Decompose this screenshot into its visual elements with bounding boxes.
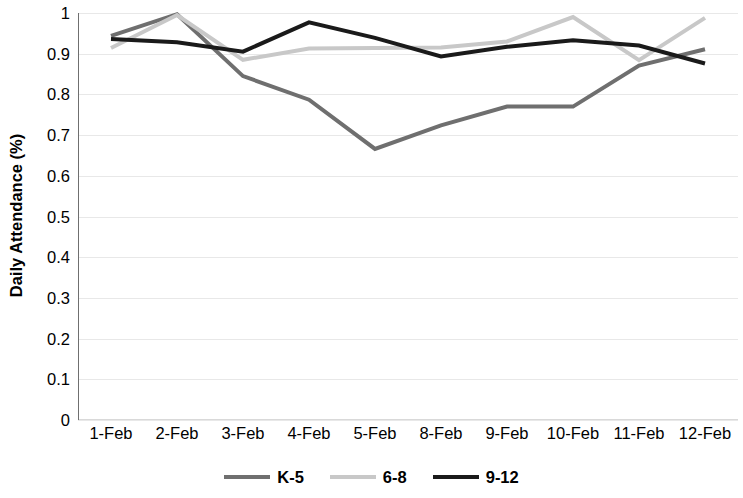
y-axis-tick-label: 0.6 — [47, 168, 70, 185]
legend-swatch-icon — [433, 475, 479, 479]
y-axis-tick-label: 0.8 — [47, 86, 70, 103]
x-axis-tick-label: 1-Feb — [89, 424, 132, 444]
y-axis-tick-label: 0.1 — [47, 371, 70, 388]
y-axis-tick-label: 0.2 — [47, 330, 70, 347]
line-chart: Daily Attendance (%) 10.90.80.70.60.50.4… — [0, 0, 743, 498]
x-axis-tick-label: 12-Feb — [679, 424, 731, 444]
plot-area — [78, 13, 738, 420]
y-axis-tick-labels: 10.90.80.70.60.50.40.30.20.10 — [0, 13, 78, 420]
x-axis-tick-label: 10-Feb — [547, 424, 599, 444]
legend-label: 9-12 — [486, 469, 519, 486]
legend-item-k-5[interactable]: K-5 — [224, 469, 304, 486]
y-axis-tick-label: 0.4 — [47, 249, 70, 266]
legend-swatch-icon — [330, 475, 376, 479]
legend-label: 6-8 — [383, 469, 407, 486]
x-axis-tick-label: 11-Feb — [613, 424, 664, 444]
chart-legend: K-56-89-12 — [0, 462, 743, 492]
legend-swatch-icon — [224, 475, 270, 479]
y-axis-tick-label: 0 — [61, 412, 70, 429]
legend-item-9-12[interactable]: 9-12 — [433, 469, 519, 486]
series-container — [78, 13, 738, 420]
y-axis-tick-label: 1 — [61, 5, 70, 22]
x-axis-tick-label: 9-Feb — [485, 424, 528, 444]
y-axis-tick-label: 0.5 — [47, 208, 70, 225]
legend-item-6-8[interactable]: 6-8 — [330, 469, 407, 486]
gridline — [78, 420, 738, 421]
x-axis-tick-label: 3-Feb — [221, 424, 264, 444]
legend-label: K-5 — [277, 469, 304, 486]
x-axis-tick-label: 8-Feb — [419, 424, 462, 444]
series-line-k-5 — [111, 14, 705, 149]
y-axis-tick-label: 0.3 — [47, 290, 70, 307]
x-axis-tick-labels: 1-Feb2-Feb3-Feb4-Feb5-Feb8-Feb9-Feb10-Fe… — [78, 424, 738, 448]
x-axis-tick-label: 4-Feb — [287, 424, 330, 444]
y-axis-tick-label: 0.9 — [47, 45, 70, 62]
y-axis-tick-label: 0.7 — [47, 127, 70, 144]
x-axis-tick-label: 2-Feb — [155, 424, 198, 444]
x-axis-tick-label: 5-Feb — [353, 424, 396, 444]
